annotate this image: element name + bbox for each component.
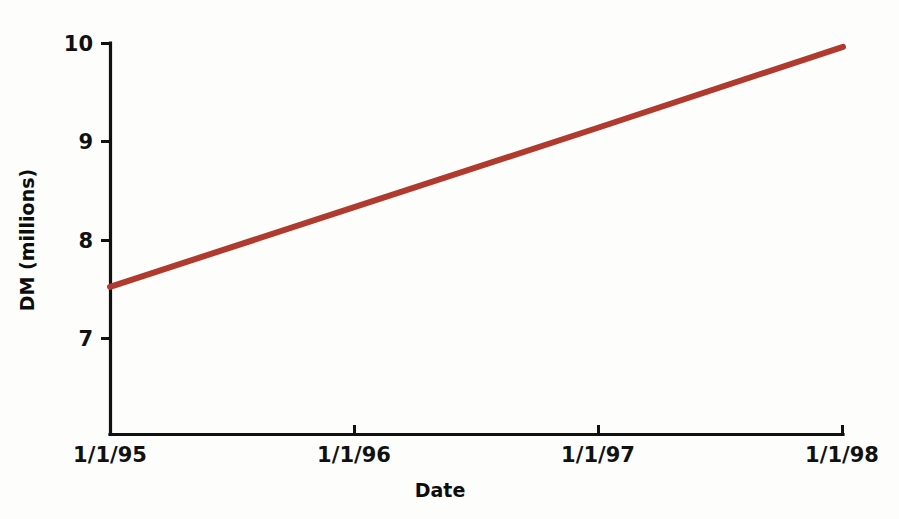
x-axis-title: Date	[415, 479, 466, 501]
x-tick-labels: 1/1/95 1/1/96 1/1/97 1/1/98	[73, 443, 879, 467]
chart-canvas: 10 9 8 7 1/1/95 1/1/96 1/1/97 1/1/98 DM …	[0, 0, 899, 519]
y-tick-marks	[101, 44, 110, 339]
x-tick-label-2: 1/1/96	[317, 443, 391, 467]
x-tick-label-3: 1/1/97	[561, 443, 635, 467]
line-chart: 10 9 8 7 1/1/95 1/1/96 1/1/97 1/1/98 DM …	[0, 0, 899, 519]
y-tick-label-7: 7	[78, 327, 93, 351]
x-tick-marks	[111, 425, 843, 434]
x-tick-label-4: 1/1/98	[805, 443, 879, 467]
data-series-line	[110, 47, 843, 287]
y-tick-labels: 10 9 8 7	[64, 32, 93, 351]
y-tick-label-8: 8	[78, 229, 93, 253]
x-tick-label-1: 1/1/95	[73, 443, 147, 467]
y-tick-label-9: 9	[78, 130, 93, 154]
y-axis-title: DM (millions)	[16, 169, 38, 311]
y-tick-label-10: 10	[64, 32, 93, 56]
